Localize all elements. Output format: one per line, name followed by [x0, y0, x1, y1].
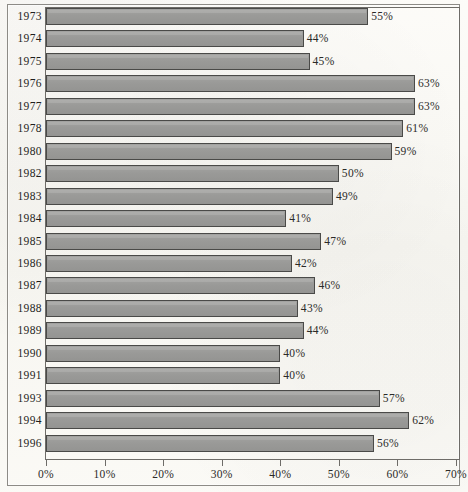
bar-highlight: [48, 122, 401, 125]
bar-value-label: 61%: [406, 120, 428, 137]
bar: [46, 435, 374, 452]
bar-row: 56%: [46, 435, 456, 452]
y-axis-label: 1973: [2, 8, 42, 25]
bar-row: 44%: [46, 30, 456, 47]
y-axis-label: 1993: [2, 390, 42, 407]
y-axis-label: 1977: [2, 98, 42, 115]
y-axis-label: 1996: [2, 435, 42, 452]
y-axis-label: 1978: [2, 120, 42, 137]
bar-value-label: 41%: [289, 210, 311, 227]
bar-highlight: [48, 437, 372, 440]
bar-highlight: [48, 10, 366, 13]
bar: [46, 277, 315, 294]
bar-highlight: [48, 77, 413, 80]
bar: [46, 367, 280, 384]
bar-highlight: [48, 302, 296, 305]
bar-row: 40%: [46, 345, 456, 362]
bar-value-label: 43%: [301, 300, 323, 317]
bar-row: 57%: [46, 390, 456, 407]
bar-highlight: [48, 414, 407, 417]
x-axis-tick-label: 20%: [152, 468, 174, 480]
bar: [46, 233, 321, 250]
x-axis-tick-mark: [339, 459, 340, 466]
bar: [46, 98, 415, 115]
bar-highlight: [48, 347, 278, 350]
y-axis-label: 1982: [2, 165, 42, 182]
bar-highlight: [48, 257, 290, 260]
bar: [46, 8, 368, 25]
bar-value-label: 42%: [295, 255, 317, 272]
bar-value-label: 44%: [307, 30, 329, 47]
bar: [46, 412, 409, 429]
bar: [46, 255, 292, 272]
bar-row: 41%: [46, 210, 456, 227]
bar-value-label: 47%: [324, 233, 346, 250]
x-axis-tick-mark: [46, 459, 47, 466]
bar-value-label: 56%: [377, 435, 399, 452]
bar: [46, 300, 298, 317]
y-axis-label: 1987: [2, 277, 42, 294]
bar-value-label: 50%: [342, 165, 364, 182]
x-axis-tick-mark: [280, 459, 281, 466]
x-axis-tick-mark: [222, 459, 223, 466]
y-axis-label: 1976: [2, 75, 42, 92]
bar-row: 63%: [46, 75, 456, 92]
bar-highlight: [48, 32, 302, 35]
bar-value-label: 45%: [313, 53, 335, 70]
bar-value-label: 63%: [418, 98, 440, 115]
bar-row: 43%: [46, 300, 456, 317]
x-axis-tick-mark: [456, 459, 457, 466]
bar-value-label: 40%: [283, 367, 305, 384]
x-axis-tick-mark: [397, 459, 398, 466]
x-axis-tick-mark: [105, 459, 106, 466]
bar-value-label: 59%: [395, 143, 417, 160]
bar-value-label: 46%: [318, 277, 340, 294]
x-axis-tick-label: 50%: [328, 468, 350, 480]
bar: [46, 75, 415, 92]
y-axis-label: 1985: [2, 233, 42, 250]
bar-highlight: [48, 324, 302, 327]
bar-highlight: [48, 190, 331, 193]
bar-highlight: [48, 212, 284, 215]
bar: [46, 345, 280, 362]
chart-figure: 1973197419751976197719781980198219831984…: [0, 0, 468, 492]
bar: [46, 322, 304, 339]
bar-highlight: [48, 392, 378, 395]
bar-highlight: [48, 55, 308, 58]
bar-value-label: 55%: [371, 8, 393, 25]
bar-value-label: 57%: [383, 390, 405, 407]
bar-row: 45%: [46, 53, 456, 70]
bar-highlight: [48, 279, 313, 282]
y-axis-label: 1989: [2, 322, 42, 339]
bar-row: 62%: [46, 412, 456, 429]
y-axis-label: 1983: [2, 188, 42, 205]
bar-row: 59%: [46, 143, 456, 160]
x-axis-tick-mark: [163, 459, 164, 466]
bar: [46, 53, 310, 70]
bar-row: 46%: [46, 277, 456, 294]
bar: [46, 188, 333, 205]
bar-row: 50%: [46, 165, 456, 182]
bar-value-label: 62%: [412, 412, 434, 429]
x-axis-tick-label: 60%: [386, 468, 408, 480]
bar: [46, 210, 286, 227]
bar-row: 63%: [46, 98, 456, 115]
bar-row: 61%: [46, 120, 456, 137]
y-axis-label: 1980: [2, 143, 42, 160]
y-axis-label: 1974: [2, 30, 42, 47]
x-axis-tick-label: 40%: [269, 468, 291, 480]
y-axis-label: 1975: [2, 53, 42, 70]
y-axis-label: 1990: [2, 345, 42, 362]
x-axis-tick-label: 10%: [94, 468, 116, 480]
bar-row: 55%: [46, 8, 456, 25]
x-axis-tick-label: 70%: [445, 468, 467, 480]
bar-row: 47%: [46, 233, 456, 250]
bar-value-label: 63%: [418, 75, 440, 92]
bar-value-label: 49%: [336, 188, 358, 205]
bar-row: 49%: [46, 188, 456, 205]
x-axis-tick-label: 0%: [38, 468, 54, 480]
bar-highlight: [48, 100, 413, 103]
bar-highlight: [48, 145, 390, 148]
bar-value-label: 40%: [283, 345, 305, 362]
bar-row: 44%: [46, 322, 456, 339]
